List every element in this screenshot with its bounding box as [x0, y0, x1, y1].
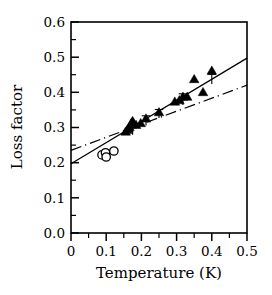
x-axis-title: Temperature (K)	[96, 264, 222, 282]
y-tick-label: 0.5	[44, 49, 65, 65]
y-tick-label: 0.3	[44, 119, 65, 135]
y-axis-tick-labels: 0.0 0.1 0.2 0.3 0.4 0.5 0.6	[44, 14, 65, 241]
x-tick-label: 0.4	[201, 243, 222, 259]
x-tick-label: 0.1	[95, 243, 116, 259]
x-tick-label: 0.3	[166, 243, 187, 259]
x-axis-tick-labels: 0 0.1 0.2 0.3 0.4 0.5	[67, 243, 258, 259]
y-tick-label: 0.6	[44, 14, 65, 30]
y-tick-label: 0.0	[44, 225, 65, 241]
y-tick-label: 0.4	[44, 84, 65, 100]
plot-frame	[71, 22, 247, 233]
y-tick-label: 0.1	[44, 190, 65, 206]
loss-factor-scatter-plot: 0.0 0.1 0.2 0.3 0.4 0.5 0.6 0 0.1 0.2 0.…	[0, 0, 272, 295]
y-axis-major-ticks	[71, 22, 79, 233]
y-axis-title: Loss factor	[8, 84, 26, 169]
x-tick-label: 0.2	[131, 243, 152, 259]
data-series-open-circles	[98, 147, 118, 161]
data-series-filled-triangles	[121, 66, 217, 135]
chart-figure: 0.0 0.1 0.2 0.3 0.4 0.5 0.6 0 0.1 0.2 0.…	[0, 0, 272, 295]
y-tick-label: 0.2	[44, 154, 65, 170]
x-tick-label: 0	[67, 243, 76, 259]
x-tick-label: 0.5	[236, 243, 257, 259]
